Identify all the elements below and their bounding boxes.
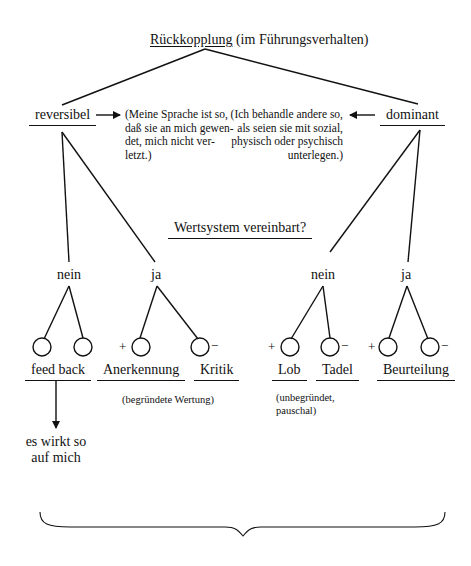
answer-left-ja: ja — [151, 268, 161, 282]
edge-rnein-c1 — [291, 286, 323, 339]
edge-reversibel-nein — [62, 132, 69, 262]
note-line: daß sie an mich gewen- — [125, 122, 234, 136]
note-line: det, mich nicht ver- — [125, 135, 234, 149]
outcome-lob: Lob — [272, 363, 307, 381]
outcome-note-unbegruendet: (unbegründet, pauschal) — [276, 391, 335, 417]
edge-root-reversibel — [62, 49, 205, 105]
outcome-anerkennung: Anerkennung — [97, 363, 185, 381]
outcome-kritik: Kritik — [194, 363, 239, 381]
node-circle — [321, 338, 339, 356]
note-line: physisch oder psychisch — [231, 135, 343, 149]
edge-lja-c2 — [157, 286, 198, 339]
edge-dominant-ja — [408, 130, 420, 262]
edge-dominant-nein — [330, 130, 420, 252]
note-line: pauschal) — [276, 404, 335, 417]
node-reversibel: reversibel — [29, 108, 96, 126]
diagram-lines — [0, 0, 471, 566]
outcome-tadel: Tadel — [316, 363, 359, 381]
outcome-note-begruendet: (begründete Wertung) — [122, 393, 214, 406]
node-circle — [74, 338, 92, 356]
note-reversibel: (Meine Sprache ist so, daß sie an mich g… — [125, 108, 234, 162]
note-line: (Ich behandle andere so, — [231, 108, 343, 122]
node-circle — [379, 338, 397, 356]
edge-lnein-c1 — [44, 286, 69, 339]
edge-lja-c1 — [140, 286, 157, 338]
plus-sign: + — [119, 340, 126, 353]
effect-line: auf mich — [18, 450, 94, 466]
edge-rja-c2 — [407, 286, 428, 339]
node-circle — [191, 338, 209, 356]
note-line: letzt.) — [125, 149, 234, 163]
edge-rnein-c2 — [323, 286, 330, 338]
plus-sign: + — [368, 340, 375, 353]
node-circle — [281, 338, 299, 356]
answer-right-nein: nein — [311, 268, 335, 282]
node-dominant: dominant — [380, 108, 445, 126]
note-line: als seien sie mit sozial, — [231, 122, 343, 136]
effect-line: es wirkt so — [18, 434, 94, 450]
node-circle — [132, 338, 150, 356]
node-circle — [33, 338, 51, 356]
question-label: Wertsystem vereinbart? — [168, 221, 312, 239]
minus-sign: − — [441, 339, 448, 352]
title-main: Rückkopplung — [150, 32, 232, 47]
diagram-title: Rückkopplung (im Führungsverhalten) — [150, 33, 369, 47]
answer-right-ja: ja — [401, 268, 411, 282]
note-line: (unbegründet, — [276, 391, 335, 404]
note-dominant: (Ich behandle andere so, als seien sie m… — [231, 108, 343, 162]
plus-sign: + — [268, 340, 275, 353]
node-circle — [421, 338, 439, 356]
outcome-feedback: feed back — [25, 363, 91, 381]
answer-left-nein: nein — [57, 268, 81, 282]
minus-sign: − — [211, 339, 218, 352]
edge-root-dominant — [205, 49, 418, 104]
outcome-beurteilung: Beurteilung — [377, 363, 455, 381]
edge-rja-c1 — [389, 286, 407, 338]
note-line: (Meine Sprache ist so, — [125, 108, 234, 122]
minus-sign: − — [341, 339, 348, 352]
effect-text: es wirkt so auf mich — [18, 434, 94, 466]
title-suffix: (im Führungsverhalten) — [236, 32, 369, 47]
edge-lnein-c2 — [69, 286, 83, 338]
note-line: unterlegen.) — [231, 149, 343, 163]
summary-brace — [40, 512, 445, 536]
